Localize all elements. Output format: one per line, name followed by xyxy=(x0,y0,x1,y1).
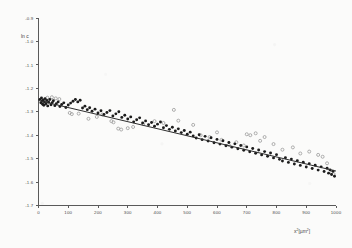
data-point-filled xyxy=(108,109,111,112)
data-point-filled xyxy=(275,153,278,156)
data-point-open xyxy=(263,136,266,139)
x-axis-title: x2[µm2] xyxy=(294,228,311,234)
data-point-filled xyxy=(150,121,153,124)
data-point-open xyxy=(259,139,262,142)
data-point-open xyxy=(249,134,252,137)
data-point-filled xyxy=(111,115,114,118)
data-point-open xyxy=(126,127,129,130)
data-point-filled xyxy=(117,110,120,113)
data-point-filled xyxy=(222,139,225,142)
x-tick-label: 0 xyxy=(37,210,40,215)
data-point-filled xyxy=(88,106,91,109)
data-point-filled xyxy=(227,141,230,144)
data-point-filled xyxy=(245,145,248,148)
data-point-filled xyxy=(76,100,79,103)
data-point-filled xyxy=(94,108,97,111)
data-point-filled xyxy=(263,150,266,153)
data-point-open xyxy=(95,115,98,118)
data-point-open xyxy=(50,96,53,99)
x-axis-tick-labels: 01002003004005006007008009001000 xyxy=(37,210,341,215)
data-point-filled xyxy=(144,119,147,122)
data-point-filled xyxy=(198,133,201,136)
data-point-open xyxy=(177,119,180,122)
data-point-filled xyxy=(67,104,70,107)
data-point-filled xyxy=(79,99,82,102)
data-point-filled xyxy=(86,108,89,111)
data-point-filled xyxy=(233,142,236,145)
data-point-filled xyxy=(159,121,162,124)
x-tick-label: 700 xyxy=(243,210,251,215)
scatter-plot: -0.9-1.0-1.1-1.2-1.3-1.4-1.5-1.6-1.7 010… xyxy=(0,0,352,248)
data-point-open xyxy=(242,144,245,147)
data-point-filled xyxy=(299,164,302,167)
data-point-filled xyxy=(156,123,159,126)
data-point-filled xyxy=(177,127,180,130)
x-tick-label: 1000 xyxy=(331,210,342,215)
y-tick-label: -0.9 xyxy=(25,16,34,21)
data-point-filled xyxy=(105,111,108,114)
data-point-filled xyxy=(333,175,336,178)
data-point-filled xyxy=(141,122,144,125)
data-point-filled xyxy=(72,100,75,103)
data-point-filled xyxy=(62,101,65,104)
y-tick-label: -1.6 xyxy=(25,180,34,185)
data-point-filled xyxy=(239,144,242,147)
data-point-open xyxy=(281,148,284,151)
data-point-filled xyxy=(183,129,186,132)
y-tick-label: -1.3 xyxy=(25,109,34,114)
y-axis-tick-labels: -0.9-1.0-1.1-1.2-1.3-1.4-1.5-1.6-1.7 xyxy=(25,16,34,209)
data-point-open xyxy=(117,127,120,130)
data-point-open xyxy=(317,153,320,156)
data-point-open xyxy=(120,128,123,131)
data-point-filled xyxy=(287,161,290,164)
data-point-open xyxy=(162,122,165,125)
data-point-filled xyxy=(57,100,60,103)
data-point-filled xyxy=(204,135,207,138)
data-point-filled xyxy=(269,152,272,155)
x-tick-label: 900 xyxy=(302,210,310,215)
data-point-filled xyxy=(83,105,86,108)
data-point-filled xyxy=(69,102,72,105)
data-point-filled xyxy=(162,126,165,129)
data-point-filled xyxy=(91,110,94,113)
data-point-filled xyxy=(74,98,77,101)
data-point-filled xyxy=(129,115,132,118)
data-point-filled xyxy=(120,116,123,119)
data-point-filled xyxy=(311,167,314,170)
data-point-filled xyxy=(81,107,84,110)
data-point-open xyxy=(299,152,302,155)
data-point-open xyxy=(54,97,57,100)
y-tick-label: -1.2 xyxy=(25,86,34,91)
x-tick-label: 800 xyxy=(273,210,281,215)
x-axis-title-unit-close: ] xyxy=(309,228,311,234)
y-tick-label: -1.1 xyxy=(25,63,34,68)
data-point-filled xyxy=(174,130,177,133)
y-tick-label: -1.4 xyxy=(25,133,34,138)
y-axis-title: ln c xyxy=(21,33,29,39)
y-tick-label: -1.0 xyxy=(25,39,34,44)
data-point-open xyxy=(245,133,248,136)
data-point-open xyxy=(192,123,195,126)
data-point-open xyxy=(321,155,324,158)
data-point-open xyxy=(87,117,90,120)
data-point-open xyxy=(291,146,294,149)
x-tick-label: 500 xyxy=(183,210,191,215)
data-point-open xyxy=(132,125,135,128)
data-point-filled xyxy=(126,118,129,121)
data-point-filled xyxy=(189,131,192,134)
x-tick-label: 100 xyxy=(64,210,72,215)
data-point-filled xyxy=(171,126,174,129)
x-tick-label: 400 xyxy=(154,210,162,215)
data-point-filled xyxy=(216,138,219,141)
x-tick-label: 200 xyxy=(94,210,102,215)
y-tick-label: -1.5 xyxy=(25,156,34,161)
x-tick-label: 600 xyxy=(213,210,221,215)
data-point-filled xyxy=(323,170,326,173)
data-point-filled xyxy=(257,149,260,152)
data-point-open xyxy=(172,108,175,111)
data-point-filled xyxy=(293,163,296,166)
data-points-filled xyxy=(39,96,336,177)
data-point-open xyxy=(77,112,80,115)
data-point-filled xyxy=(52,99,55,102)
x-tick-label: 300 xyxy=(124,210,132,215)
